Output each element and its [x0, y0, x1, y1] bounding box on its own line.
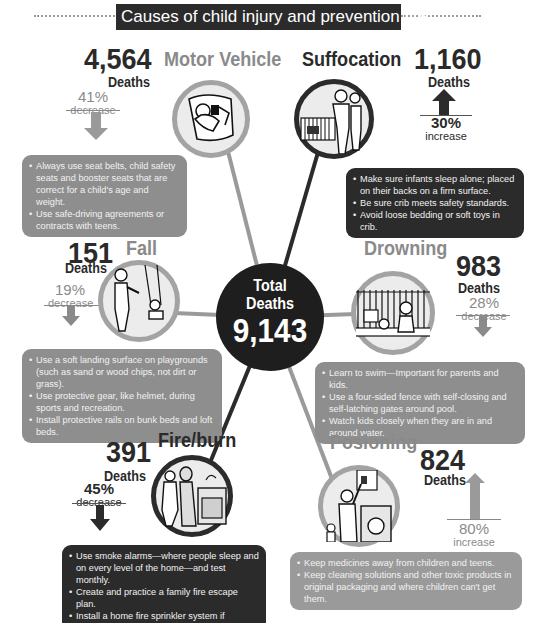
suffocation-tip: Avoid loose bedding or soft toys in crib…: [353, 209, 517, 233]
fire-burn-change-pct: 45%: [76, 482, 122, 496]
motor-vehicle-deaths-label: Deaths: [108, 74, 150, 90]
stove-family-icon: [156, 460, 228, 532]
poisoning-deaths-label: Deaths: [424, 472, 466, 488]
total-deaths-circle: Total Deaths 9,143: [216, 263, 324, 371]
fire-burn-illustration: [151, 455, 233, 537]
suffocation-change-dir: increase: [420, 130, 472, 142]
drowning-tip: Use a four-sided fence with self-closing…: [322, 391, 518, 415]
motor-vehicle-deaths-count: 4,564: [84, 44, 152, 74]
drowning-title: Drowning: [364, 236, 447, 260]
car-seat-icon: [177, 85, 245, 153]
fire-burn-rule: [72, 503, 126, 504]
suffocation-illustration: [294, 79, 374, 159]
motor-vehicle-tip: Use safe-driving agreements or contracts…: [29, 208, 180, 232]
total-label-line2: Deaths: [221, 295, 318, 313]
poisoning-change-dir: increase: [450, 536, 498, 548]
drowning-deaths-count: 983: [456, 251, 501, 281]
suffocation-tip: Be sure crib meets safety standards.: [353, 197, 517, 209]
fall-change-pct: 19%: [48, 283, 92, 297]
medicine-cabinet-icon: [323, 470, 395, 542]
down-arrow-icon: [84, 112, 108, 140]
drowning-illustration: [351, 271, 435, 355]
fall-illustration: [98, 260, 180, 342]
poisoning-tip: Keep medicines away from children and te…: [297, 557, 515, 569]
motor-vehicle-rule: [66, 110, 120, 111]
down-arrow-icon: [90, 505, 110, 531]
suffocation-deaths-count: 1,160: [414, 44, 482, 74]
motor-vehicle-change-pct: 41%: [70, 90, 116, 104]
pool-fence-icon: [356, 276, 430, 350]
total-deaths-value: 9,143: [221, 313, 318, 349]
up-arrow-icon: [465, 473, 485, 519]
poisoning-illustration: [318, 465, 400, 547]
poisoning-tip: Keep cleaning solutions and other toxic …: [297, 569, 515, 605]
motor-vehicle-tips: Always use seat belts, child safety seat…: [22, 155, 187, 237]
drowning-tip: Learn to swim—Important for parents and …: [322, 367, 518, 391]
down-arrow-icon: [62, 306, 80, 326]
up-arrow-icon: [432, 89, 456, 115]
drowning-change-pct: 28%: [460, 296, 508, 310]
suffocation-change-pct: 30%: [420, 116, 472, 130]
swing-playground-icon: [103, 265, 175, 337]
fire-burn-tips: Use smoke alarms—where people sleep and …: [62, 545, 266, 623]
total-label-line1: Total: [221, 263, 318, 295]
crib-parents-icon: [299, 84, 369, 154]
suffocation-title: Suffocation: [302, 47, 401, 71]
motor-vehicle-title: Motor Vehicle: [164, 47, 281, 71]
poisoning-title: Posioning: [330, 430, 417, 454]
fall-deaths-label: Deaths: [65, 260, 107, 276]
down-arrow-icon: [474, 316, 492, 337]
fire-burn-tip: Use smoke alarms—where people sleep and …: [69, 550, 259, 586]
fall-tip: Use a soft landing surface on playground…: [29, 354, 215, 390]
suffocation-tips: Make sure infants sleep alone; placed on…: [346, 168, 524, 238]
fire-burn-tip: Create and practice a family fire escape…: [69, 586, 259, 610]
fire-burn-deaths-count: 391: [106, 437, 151, 467]
poisoning-change: 80% increase: [450, 522, 498, 548]
suffocation-change: 30% increase: [420, 116, 472, 142]
fire-burn-title: Fire/burn: [158, 428, 236, 452]
suffocation-tip: Make sure infants sleep alone; placed on…: [353, 173, 517, 197]
suffocation-deaths-label: Deaths: [428, 74, 470, 90]
fall-tip: Use protective gear, like helmet, during…: [29, 390, 215, 414]
fall-title: Fall: [126, 236, 157, 260]
poisoning-deaths-count: 824: [420, 445, 465, 475]
fire-burn-tip: Install a home fire sprinkler system if …: [69, 610, 259, 623]
poisoning-tips: Keep medicines away from children and te…: [290, 552, 522, 610]
motor-vehicle-tip: Always use seat belts, child safety seat…: [29, 160, 180, 208]
poisoning-change-pct: 80%: [450, 522, 498, 536]
motor-vehicle-illustration: [172, 80, 250, 158]
